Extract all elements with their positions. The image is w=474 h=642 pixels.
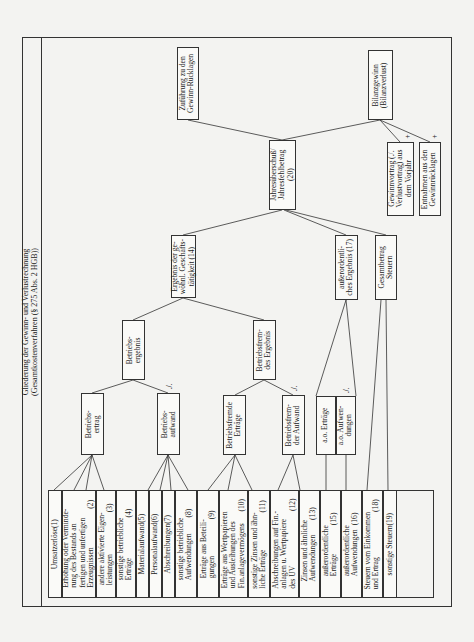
title-line-2: (Gesamtkostenverfahren (§ 275 Abs. 2 HGB…: [31, 37, 40, 607]
leaf-label: Erhöhung oder Verminde- rung des Bestand…: [62, 509, 96, 588]
leaf-number: (16): [352, 512, 360, 525]
leaf-label: außerordentliche Erträge: [322, 525, 339, 576]
node-jahresueberschuss: Jahresüberschuß/ Jahresfehlbetrag (20): [269, 140, 296, 210]
node-label: außerordentli- ches Ergebnis (17): [338, 239, 355, 296]
leaf-item-12: Abschreibungen auf Fin.- anlagen u. Wert…: [270, 490, 299, 598]
node-ergebnis-gewoehnliche-geschaeftstaetigkeit: Ergebnis der ge- wöhnl. Geschäfts- tätig…: [171, 235, 196, 298]
leaf-label: Materialaufwand: [138, 522, 146, 574]
node-ao-ertraege: a.o. Erträge: [316, 396, 336, 455]
plus-sign: +: [403, 134, 412, 139]
node-label: Gesamtbetrag Steuern: [378, 246, 395, 288]
plus-sign: +: [430, 134, 439, 139]
leaf-number: (11): [259, 500, 267, 512]
leaf-label: Zinsen und ähnliche Aufwendungen: [301, 520, 318, 582]
node-betriebsertrag: Betriebs- ertrag: [81, 393, 104, 455]
leaf-number: (1): [51, 519, 59, 528]
leaf-item-9: Erträge aus Beteili- gungen (9): [197, 490, 219, 598]
leaf-number: (18): [373, 499, 381, 512]
leaf-number: (9): [208, 510, 216, 519]
leaf-number: (10): [238, 499, 246, 512]
leaf-label: Umsatzerlöse: [51, 528, 59, 569]
leaf-item-3: andere aktivierte Eigen- leistungen (3): [96, 490, 116, 598]
node-bilanzgewinn: Bilanzgewinn (Bilanzverlust): [368, 50, 393, 120]
node-label: Zuführung zu den Gewinn-Rücklagen: [180, 54, 197, 113]
leaf-label: Erträge aus Beteili- gungen: [200, 519, 217, 578]
title-strip: Gliederung der Gewinn- und Verlustrechnu…: [22, 37, 42, 607]
node-gewinnvortrag: Gewinnvortrag (./. Verlustvortrag) aus d…: [387, 142, 414, 216]
leaf-item-1: Umsatzerlöse (1): [48, 490, 62, 598]
leaf-number: (6): [151, 513, 159, 522]
diagram-title: Gliederung der Gewinn- und Verlustrechnu…: [22, 37, 42, 607]
leaf-number: (12): [289, 499, 297, 512]
leaf-label: Abschreibungen: [164, 524, 172, 574]
leaf-item-10: Erträge aus Wertpapieren und Ausleihunge…: [219, 490, 248, 598]
leaf-label: Erträge aus Wertpapieren und Ausleihunge…: [221, 512, 246, 589]
leaf-label: Abschreibungen auf Fin.- anlagen u. Wert…: [272, 511, 297, 589]
node-entnahmen-gewinnruecklagen: Entnahmen aus den Gewinnrücklagen: [419, 142, 441, 216]
leaf-item-6: Personalaufwand (6): [149, 490, 162, 598]
leaf-item-15: außerordentliche Erträge (15): [320, 490, 341, 598]
leaf-item-4: sonstige betriebliche Erträge (4): [116, 490, 136, 598]
leaf-item-5: Materialaufwand (5): [136, 490, 149, 598]
leaf-number: (8): [186, 508, 194, 517]
minus-sign: ./.: [342, 387, 351, 393]
leaf-label: sonstige betriebliche Aufwendungen: [178, 517, 195, 580]
leaf-number: (5): [138, 514, 146, 523]
node-zufuehrung-gewinnruecklagen: Zuführung zu den Gewinn-Rücklagen: [177, 47, 199, 120]
leaf-item-13: Zinsen und ähnliche Aufwendungen (13): [299, 490, 320, 598]
leaf-item-7: Abschreibungen (7): [162, 490, 175, 598]
node-label: Betriebs- aufwand: [160, 410, 177, 438]
leaf-number: (4): [126, 508, 134, 517]
node-label: Betriebs- ertrag: [84, 410, 101, 438]
node-label: Entnahmen aus den Gewinnrücklagen: [422, 149, 439, 208]
node-betriebsfremdes-ergebnis: Betriebsfrem- des Ergebnis: [253, 320, 276, 380]
node-gesamtbetrag-steuern: Gesamtbetrag Steuern: [375, 235, 397, 300]
leaf-item-11: sonstige Zinsen und ähn- liche Erträge (…: [248, 490, 270, 598]
node-betriebsaufwand: Betriebs- aufwand: [157, 393, 180, 455]
node-ausserordentliches-ergebnis: außerordentli- ches Ergebnis (17): [335, 235, 358, 300]
leaf-label: andere aktivierte Eigen- leistungen: [98, 512, 115, 585]
leaf-number: (3): [106, 503, 114, 512]
leaf-item-2: Erhöhung oder Verminde- rung des Bestand…: [62, 490, 96, 598]
node-betriebsfremder-aufwand: Betriebsfrem- der Aufwand: [282, 395, 305, 455]
leaf-label: sonstige Steuern: [386, 525, 394, 575]
node-label: Gewinnvortrag (./. Verlustvortrag) aus d…: [388, 150, 413, 208]
leaf-number: (2): [87, 500, 95, 509]
node-ao-aufwendungen: a.o. Aufwen- dungen: [336, 396, 356, 455]
leaf-item-18: Steuern vom Einkommen und Ertrag (18): [362, 490, 383, 598]
node-label: a.o. Erträge: [322, 408, 330, 443]
node-label: Jahresüberschuß/ Jahresfehlbetrag (20): [270, 149, 295, 201]
node-label: Betriebsfrem- des Ergebnis: [256, 329, 273, 371]
leaf-label: außerordentliche Aufwendungen: [343, 525, 360, 576]
node-label: a.o. Aufwen- dungen: [338, 406, 355, 445]
node-label: Ergebnis der ge- wöhnl. Geschäfts- tätig…: [171, 239, 196, 294]
node-betriebsergebnis: Betriebs- ergebnis: [122, 320, 145, 380]
leaf-number: (19): [386, 513, 394, 526]
node-label: Betriebsfrem- der Aufwand: [285, 404, 302, 446]
node-betriebsfremde-ertraege: Betriebsfremde Erträge: [223, 395, 246, 455]
leaf-item-19: sonstige Steuern (19): [383, 490, 397, 598]
minus-sign: ./.: [290, 385, 299, 391]
leaf-label: Steuern vom Einkommen und Ertrag: [364, 512, 381, 590]
node-label: Bilanzgewinn (Bilanzverlust): [372, 62, 389, 108]
minus-sign: ./.: [165, 383, 174, 389]
leaf-item-16: außerordentliche Aufwendungen (16): [341, 490, 362, 598]
leaf-label: sonstige Zinsen und ähn- liche Erträge: [251, 512, 268, 588]
leaf-number: (13): [310, 507, 318, 520]
node-label: Betriebs- ergebnis: [125, 336, 142, 364]
leaf-label: Personalaufwand: [151, 522, 159, 574]
leaf-item-8: sonstige betriebliche Aufwendungen (8): [175, 490, 197, 598]
leaf-number: (15): [331, 512, 339, 525]
leaf-number: (7): [164, 515, 172, 524]
leaf-label: sonstige betriebliche Erträge: [118, 517, 135, 580]
node-label: Betriebsfremde Erträge: [226, 402, 243, 449]
